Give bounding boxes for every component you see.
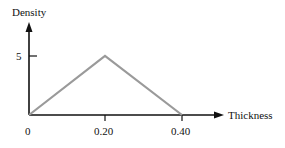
x-tick-label-0.20: 0.20 [94, 125, 113, 137]
x-tick-label-0.40: 0.40 [171, 125, 190, 137]
y-axis-arrow-icon [26, 22, 33, 32]
density-line [29, 56, 182, 115]
x-tick-label-0: 0 [25, 125, 31, 137]
x-axis-arrow-icon [214, 112, 224, 119]
x-axis-label: Thickness [228, 109, 273, 121]
y-tick-label-5: 5 [16, 50, 22, 62]
y-axis-label: Density [12, 6, 46, 18]
chart-canvas [0, 0, 285, 148]
